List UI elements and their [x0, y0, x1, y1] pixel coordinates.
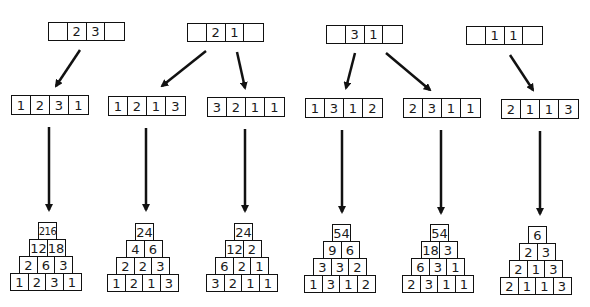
pyramid-cell: 24: [135, 223, 154, 241]
cell: [188, 24, 207, 41]
arrow-c-to-1312: [346, 53, 355, 88]
cell: 2: [363, 99, 382, 117]
cell: 1: [486, 27, 505, 44]
pyramid-cell: 2: [19, 256, 38, 274]
arrow-c-to-2311: [386, 53, 430, 90]
cell: [327, 26, 346, 43]
cell: 3: [423, 99, 442, 117]
pyramid-cell: 2: [519, 243, 538, 261]
cell: 2: [227, 98, 246, 116]
cell: 3: [346, 26, 365, 43]
pyramid-cell: 3: [331, 258, 350, 276]
arrow-a-to-1231: [56, 50, 80, 86]
pyramid-cell: 216: [38, 222, 57, 240]
cell: [244, 24, 263, 41]
sequence-2: 1 2 1 3: [108, 96, 186, 116]
cell: 2: [128, 97, 147, 115]
pyramid-cell: 1: [518, 277, 537, 295]
pyramid-cell: 1: [455, 275, 474, 293]
arrow-b-to-3211: [237, 52, 245, 88]
pyramid-cell: 3: [439, 241, 458, 259]
cell: 3: [87, 23, 106, 40]
pyramid-cell: 3: [151, 257, 170, 275]
pyramid-cell: 3: [553, 277, 572, 295]
pyramid-cell: 1: [107, 274, 126, 292]
cell: 3: [208, 98, 227, 116]
cell: 1: [226, 24, 245, 41]
cell: 2: [31, 96, 50, 114]
cell: 1: [265, 98, 284, 116]
pyramid-cell: 6: [215, 257, 234, 275]
pyramid-cell: 12: [225, 240, 244, 258]
pyramid-cell: 3: [429, 258, 448, 276]
cell: 1: [246, 98, 265, 116]
top-pattern-c: 3 1: [326, 25, 403, 44]
pyramid-cell: 1: [250, 257, 269, 275]
pyramid-cell: 2: [500, 277, 519, 295]
pyramid-cell: 1: [535, 277, 554, 295]
pyramid-cell: 1: [446, 258, 465, 276]
cell: 1: [12, 96, 31, 114]
cell: 1: [365, 26, 384, 43]
pyramid-cell: 3: [420, 275, 439, 293]
cell: 1: [521, 100, 540, 118]
pyramid-cell: 2: [125, 274, 144, 292]
pyramid-cell: 12: [29, 239, 48, 257]
cell: 1: [461, 99, 480, 117]
cell: 2: [404, 99, 423, 117]
pyramid-cell: 1: [527, 260, 546, 278]
sequence-3: 3 2 1 1: [207, 97, 285, 117]
cell: 1: [344, 99, 363, 117]
pyramid-cell: 6: [144, 240, 163, 258]
pyramid-cell: 1: [10, 273, 29, 291]
cell: 2: [207, 24, 226, 41]
pyramid-cell: 2: [348, 258, 367, 276]
arrow-d-to-2113: [510, 55, 533, 90]
sequence-1: 1 2 3 1: [11, 95, 89, 115]
pyramid-cell: 2: [224, 274, 243, 292]
pyramid-cell: 2: [116, 257, 135, 275]
pyramid-cell: 54: [430, 224, 449, 242]
pyramid-cell: 1: [259, 274, 278, 292]
cell: 3: [166, 97, 185, 115]
cell: 2: [502, 100, 521, 118]
cell: 1: [69, 96, 88, 114]
pyramid-cell: 6: [37, 256, 56, 274]
pyramid-cell: 3: [160, 274, 179, 292]
pyramid-cell: 3: [544, 260, 563, 278]
sequence-5: 2 3 1 1: [403, 98, 481, 118]
pyramid-cell: 24: [234, 223, 253, 241]
pyramid-cell: 2: [28, 273, 47, 291]
sequence-4: 1 3 1 2: [305, 98, 383, 118]
pyramid-cell: 1: [142, 274, 161, 292]
top-pattern-d: 1 1: [466, 26, 543, 45]
pyramid-cell: 3: [45, 273, 64, 291]
sequence-6: 2 1 1 3: [501, 99, 579, 119]
pyramid-cell: 6: [341, 241, 360, 259]
pyramid-cell: 1: [241, 274, 260, 292]
pyramid-cell: 18: [47, 239, 66, 257]
top-pattern-a: 2 3: [48, 22, 125, 41]
cell: 1: [109, 97, 128, 115]
cell: [49, 23, 68, 40]
pyramid-cell: 1: [63, 273, 82, 291]
cell: [383, 26, 402, 43]
cell: [523, 27, 542, 44]
pyramid-cell: 2: [357, 275, 376, 293]
pyramid-cell: 3: [54, 256, 73, 274]
pyramid-cell: 4: [126, 240, 145, 258]
cell: [467, 27, 486, 44]
pyramid-cell: 6: [411, 258, 430, 276]
cell: 1: [442, 99, 461, 117]
cell: [105, 23, 124, 40]
pyramid-cell: 3: [313, 258, 332, 276]
pyramid-cell: 1: [437, 275, 456, 293]
top-pattern-b: 2 1: [187, 23, 264, 42]
pyramid-cell: 3: [537, 243, 556, 261]
pyramid-cell: 2: [509, 260, 528, 278]
cell: 3: [559, 100, 578, 118]
pyramid-cell: 2: [402, 275, 421, 293]
pyramid-cell: 54: [332, 224, 351, 242]
pyramid-cell: 3: [206, 274, 225, 292]
pyramid-cell: 9: [323, 241, 342, 259]
